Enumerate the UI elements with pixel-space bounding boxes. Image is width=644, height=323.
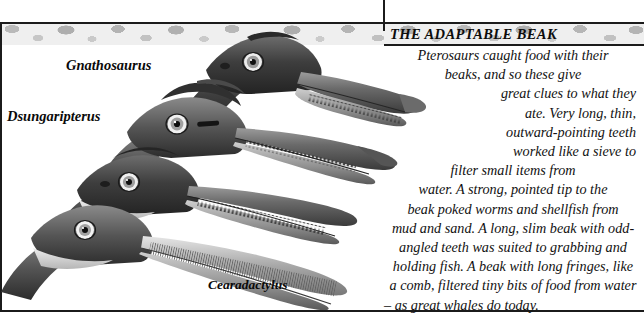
body-line-1: Pterosaurs caught food with their bbox=[382, 46, 644, 65]
species-label-dsungaripterus: Dsungaripterus bbox=[7, 108, 100, 125]
body-text-block: Pterosaurs caught food with their beaks,… bbox=[382, 44, 644, 302]
body-line-13: a comb, filtered tiny bits of food from … bbox=[382, 276, 644, 295]
body-line-14: – as great whales do today. bbox=[382, 296, 644, 315]
body-line-10: mud and sand. A long, slim beak with odd… bbox=[382, 219, 644, 238]
body-line-5: outward-pointing teeth bbox=[382, 123, 644, 142]
body-line-11: angled teeth was suited to grabbing and bbox=[382, 238, 644, 257]
body-line-3: great clues to what they bbox=[382, 84, 644, 103]
body-line-12: holding fish. A beak with long fringes, … bbox=[382, 257, 644, 276]
body-line-8: water. A strong, pointed tip to the bbox=[382, 180, 644, 199]
body-line-9: beak poked worms and shellfish from bbox=[382, 200, 644, 219]
species-label-gnathosaurus: Gnathosaurus bbox=[66, 57, 151, 74]
body-line-6: worked like a sieve to bbox=[382, 142, 644, 161]
body-line-4: ate. Very long, thin, bbox=[382, 104, 644, 123]
species-label-cearadactylus: Cearadactylus bbox=[208, 277, 288, 293]
body-line-7: filter small items from bbox=[382, 161, 644, 180]
body-line-2: beaks, and so these give bbox=[382, 65, 644, 84]
illustrated-page: THE ADAPTABLE BEAK bbox=[0, 0, 644, 323]
